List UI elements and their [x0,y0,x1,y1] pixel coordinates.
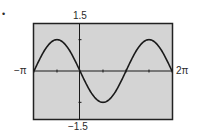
plot-area [0,0,198,139]
